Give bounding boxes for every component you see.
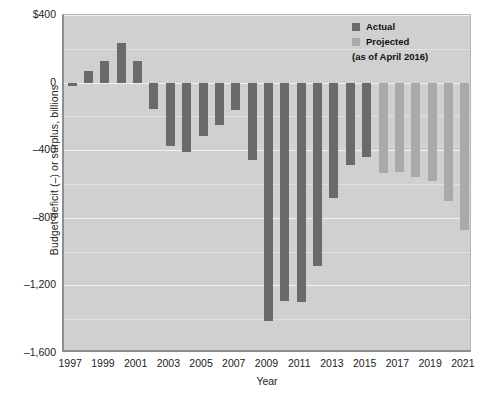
legend-swatch-projected-icon [352,38,360,46]
y-tick--1200: –1,200 [0,278,56,290]
legend-label-actual: Actual [366,20,395,33]
legend-item-projected: Projected [352,35,428,48]
bar-2013 [329,83,338,198]
x-tick-1997: 1997 [58,357,81,369]
y-tick--800: –800 [0,211,56,223]
y-tick-400: $400 [0,8,56,20]
plot-area [62,14,471,352]
x-tick-2015: 2015 [353,357,376,369]
bar-2018 [411,83,420,178]
x-tick-2005: 2005 [189,357,212,369]
x-tick-2007: 2007 [222,357,245,369]
bar-2004 [182,83,191,153]
bar-2001 [133,61,142,83]
legend-label-projected: Projected [366,35,409,48]
bar-2016 [379,83,388,173]
bar-2009 [264,83,273,322]
bar-2017 [395,83,404,173]
y-tick--1600: –1,600 [0,346,56,358]
x-tick-2021: 2021 [451,357,474,369]
gridline-major [64,15,470,16]
bar-2019 [428,83,437,181]
x-tick-2003: 2003 [157,357,180,369]
bar-1997 [68,83,77,87]
legend-item-actual: Actual [352,20,428,33]
bar-2002 [149,83,158,110]
x-tick-2009: 2009 [255,357,278,369]
x-tick-2001: 2001 [124,357,147,369]
bar-2006 [215,83,224,125]
x-tick-2017: 2017 [386,357,409,369]
budget-deficit-chart: Budget deficit (–) or surplus, billions … [0,0,489,399]
bar-2011 [297,83,306,303]
x-tick-1999: 1999 [91,357,114,369]
bar-2010 [280,83,289,302]
bar-1999 [100,61,109,82]
x-tick-2013: 2013 [320,357,343,369]
bar-2015 [362,83,371,157]
bar-2012 [313,83,322,267]
y-tick-0: 0 [0,76,56,88]
bar-2003 [166,83,175,147]
chart-legend: Actual Projected (as of April 2016) [352,20,428,63]
x-axis-title: Year [62,375,472,387]
bar-1998 [84,71,93,83]
bar-2020 [444,83,453,201]
bar-2005 [199,83,208,137]
bar-2008 [248,83,257,161]
bar-2000 [117,43,126,83]
y-tick--400: –400 [0,143,56,155]
legend-note: (as of April 2016) [352,50,428,63]
x-tick-2011: 2011 [288,357,311,369]
x-tick-2019: 2019 [418,357,441,369]
bar-2021 [460,83,469,230]
bar-2014 [346,83,355,165]
bar-2007 [231,83,240,110]
y-axis-tick-labels: $4000–400–800–1,200–1,600 [0,0,56,399]
legend-swatch-actual-icon [352,23,360,31]
